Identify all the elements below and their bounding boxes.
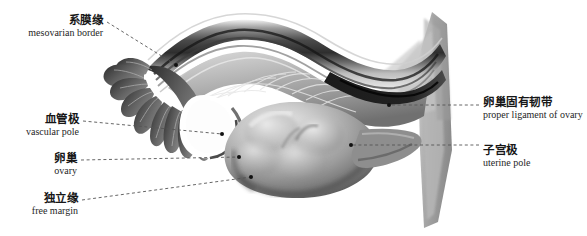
marker-dot-vascular-pole xyxy=(220,132,224,136)
label-vascular-pole: 血管极 vascular pole xyxy=(26,113,79,138)
label-cn: 独立缘 xyxy=(32,192,78,205)
label-proper-ligament-of-ovary: 卵巢固有韧带 proper ligament of ovary xyxy=(483,96,583,121)
label-cn: 子宫极 xyxy=(483,144,530,157)
label-en: mesovarian border xyxy=(28,27,103,39)
marker-dot-ovary xyxy=(237,155,241,159)
label-en: proper ligament of ovary xyxy=(483,109,583,121)
label-cn: 卵巢固有韧带 xyxy=(483,96,583,109)
label-free-margin: 独立缘 free margin xyxy=(32,192,78,217)
label-ovary: 卵巢 ovary xyxy=(54,152,77,177)
label-cn: 卵巢 xyxy=(54,152,77,165)
anatomical-figure: 系膜缘 mesovarian border 血管极 vascular pole … xyxy=(0,0,587,236)
label-cn: 系膜缘 xyxy=(28,14,103,27)
label-en: free margin xyxy=(32,205,78,217)
label-mesovarian-border: 系膜缘 mesovarian border xyxy=(28,14,103,39)
label-en: vascular pole xyxy=(26,126,79,138)
marker-dot-mesovarian-border xyxy=(174,63,178,67)
label-cn: 血管极 xyxy=(26,113,79,126)
marker-dot-uterine-pole xyxy=(349,143,353,147)
marker-dot-proper-ligament-of-ovary xyxy=(387,103,391,107)
marker-dot-free-margin xyxy=(249,175,253,179)
label-en: ovary xyxy=(54,165,77,177)
label-en: uterine pole xyxy=(483,157,530,169)
label-uterine-pole: 子宫极 uterine pole xyxy=(483,144,530,169)
